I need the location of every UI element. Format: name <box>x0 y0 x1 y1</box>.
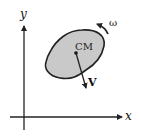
y-axis-label: y <box>19 7 27 21</box>
omega-label: ω <box>109 17 117 28</box>
velocity-label: V <box>87 76 97 89</box>
diagram-canvas: y x CM V ω <box>0 0 141 140</box>
x-axis-label: x <box>125 109 132 123</box>
cm-label: CM <box>75 41 93 52</box>
